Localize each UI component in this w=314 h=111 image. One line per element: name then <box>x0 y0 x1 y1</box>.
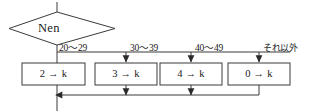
branch-label-3: 40～49 <box>195 44 223 54</box>
process-label-3: 4 → k <box>160 69 222 80</box>
branch-label-1: 20～29 <box>59 44 87 54</box>
process-label-4: 0 → k <box>228 69 290 80</box>
process-label-1: 2 → k <box>22 69 85 80</box>
decision-diamond <box>9 12 115 45</box>
branch-label-2: 30～39 <box>130 44 158 54</box>
process-label-2: 3 → k <box>95 69 157 80</box>
flowchart-diagram: Nen 20～29 30～39 40～49 それ以外 2 → k 3 → k 4… <box>0 0 314 111</box>
flowchart-canvas <box>0 0 314 111</box>
decision-label: Nen <box>38 22 60 35</box>
branch-label-4: それ以外 <box>263 44 297 53</box>
